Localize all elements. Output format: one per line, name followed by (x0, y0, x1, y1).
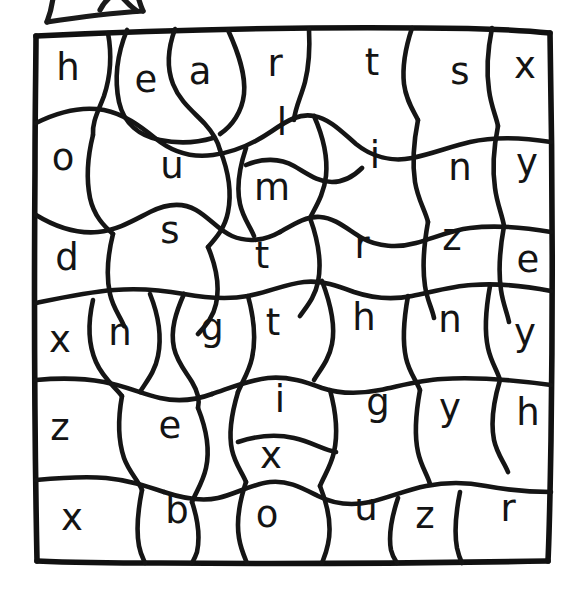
puzzle-cell-boundaries (36, 28, 551, 563)
puzzle-letter: e (135, 58, 158, 101)
puzzle-letter: t (365, 41, 380, 84)
puzzle-letter: s (450, 50, 469, 93)
puzzle-letter: h (56, 46, 79, 89)
puzzle-letter: x (514, 44, 536, 87)
puzzle-letter: z (442, 216, 461, 259)
puzzle-letter: o (256, 493, 279, 536)
puzzle-letter: x (61, 496, 83, 539)
puzzle-letter: a (189, 50, 212, 93)
puzzle-letter: i (370, 134, 380, 177)
puzzle-letter: n (438, 298, 461, 341)
puzzle-letter: z (50, 406, 69, 449)
puzzle-letter: y (439, 386, 461, 429)
puzzle-letter: y (514, 311, 536, 354)
puzzle-letter: e (159, 404, 182, 447)
puzzle-letter: x (260, 434, 282, 477)
puzzle-letter: e (517, 238, 540, 281)
puzzle-letter: d (55, 236, 79, 279)
puzzle-letter: y (516, 141, 538, 184)
puzzle-letter: o (52, 136, 75, 179)
puzzle-letter: g (200, 306, 224, 349)
puzzle-letter: l (277, 101, 287, 144)
puzzle-letter: x (49, 318, 71, 361)
puzzle-letter: n (108, 311, 131, 354)
puzzle-letter: m (254, 166, 290, 209)
puzzle-letter: h (516, 391, 539, 434)
puzzle-letter: r (267, 42, 283, 85)
puzzle-letter: s (160, 209, 179, 252)
puzzle-canvas: heartsxoulinymsdtrzexngthnyzeigyhxxbouzr (0, 0, 588, 592)
puzzle-letter: b (165, 489, 189, 532)
puzzle-letter: t (266, 301, 281, 344)
puzzle-letter: t (255, 234, 270, 277)
puzzle-letter: h (352, 296, 375, 339)
puzzle-letter: z (415, 494, 434, 537)
puzzle-letter: g (366, 381, 390, 424)
puzzle-letter: r (354, 224, 370, 267)
worksheet-page: heartsxoulinymsdtrzexngthnyzeigyhxxbouzr… (0, 0, 588, 592)
puzzle-letter: u (354, 486, 377, 529)
puzzle-letter: r (500, 487, 516, 530)
cut-off-banner-shape (47, 0, 143, 22)
puzzle-letter: u (160, 144, 183, 187)
puzzle-letter: n (448, 146, 471, 189)
puzzle-letter: i (275, 378, 285, 421)
